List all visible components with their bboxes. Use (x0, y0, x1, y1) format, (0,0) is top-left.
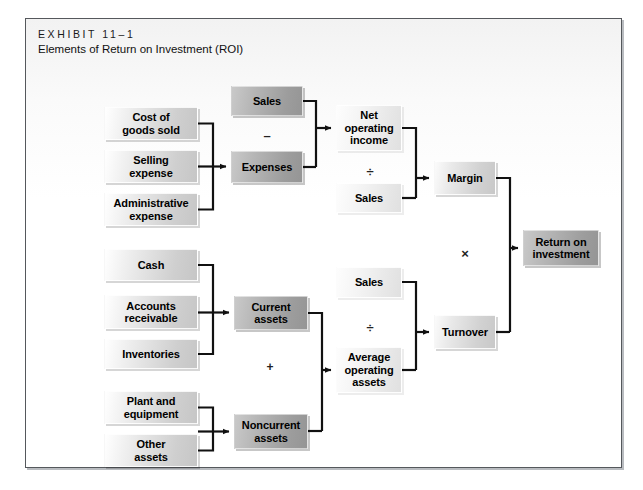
node-sales-top: Sales (231, 86, 303, 116)
node-return-on-investment: Return oninvestment (523, 230, 599, 266)
operator-plus-current-noncurrent: + (262, 359, 278, 375)
node-label: Cash (135, 259, 168, 272)
node-turnover: Turnover (434, 315, 496, 349)
screenshot-root: EXHIBIT 11–1 Elements of Return on Inves… (0, 0, 643, 490)
node-label: Turnover (439, 326, 491, 339)
exhibit-title: Elements of Return on Investment (ROI) (38, 42, 243, 57)
node-label: Noncurrentassets (239, 419, 303, 444)
operator-divide-margin: ÷ (362, 163, 378, 179)
node-cost-of-goods-sold: Cost ofgoods sold (104, 107, 198, 140)
node-margin: Margin (434, 161, 496, 195)
exhibit-frame: EXHIBIT 11–1 Elements of Return on Inves… (25, 18, 622, 468)
node-average-operating-assets: Averageoperatingassets (336, 347, 402, 393)
node-other-assets: Otherassets (104, 434, 198, 467)
node-accounts-receivable: Accountsreceivable (104, 295, 198, 329)
node-label: Return oninvestment (529, 236, 592, 261)
node-noncurrent-assets: Noncurrentassets (234, 414, 308, 449)
node-label: Sellingexpense (126, 154, 175, 179)
exhibit-number-label: EXHIBIT 11–1 (38, 27, 243, 41)
diagram-canvas: Cost ofgoods soldSellingexpenseAdministr… (26, 19, 621, 467)
node-label: Expenses (239, 161, 296, 174)
node-label: Netoperatingincome (341, 109, 396, 147)
node-label: Administrativeexpense (110, 197, 191, 222)
node-label: Margin (444, 172, 485, 185)
operator-multiply-margin-turnover: × (457, 245, 473, 261)
node-label: Sales (352, 276, 386, 289)
node-label: Averageoperatingassets (341, 351, 396, 389)
node-current-assets: Currentassets (234, 296, 308, 330)
node-plant-and-equipment: Plant andequipment (104, 391, 198, 424)
node-selling-expense: Sellingexpense (104, 150, 198, 183)
node-sales-margin-denom: Sales (336, 183, 402, 213)
operator-divide-turnover: ÷ (362, 319, 378, 335)
node-net-operating-income: Netoperatingincome (336, 105, 402, 151)
node-label: Sales (352, 192, 386, 205)
operator-minus-sales-expenses: – (259, 127, 275, 143)
node-label: Inventories (119, 348, 183, 361)
node-inventories: Inventories (104, 339, 198, 369)
node-label: Cost ofgoods sold (119, 111, 183, 136)
exhibit-header: EXHIBIT 11–1 Elements of Return on Inves… (38, 27, 243, 57)
node-label: Currentassets (248, 301, 293, 326)
node-cash: Cash (104, 249, 198, 281)
node-administrative-expense: Administrativeexpense (104, 193, 198, 226)
node-label: Plant andequipment (121, 395, 182, 420)
node-label: Otherassets (131, 438, 171, 463)
node-expenses: Expenses (231, 151, 303, 183)
node-label: Accountsreceivable (122, 300, 181, 325)
node-label: Sales (250, 95, 284, 108)
node-sales-turnover-num: Sales (336, 267, 402, 298)
